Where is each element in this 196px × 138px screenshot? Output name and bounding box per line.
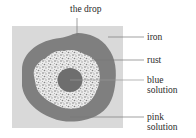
blue-solution-label: blue solution: [147, 75, 196, 95]
blue-solution-label-line1: blue: [147, 75, 196, 85]
blue-solution-label-line2: solution: [147, 85, 196, 95]
pink-solution-label-line1: pink: [147, 112, 196, 122]
pink-solution-label: pink solution: [147, 112, 196, 132]
rust-diagram: the drop iron rust blue solution pink so…: [0, 0, 196, 138]
iron-label: iron: [147, 32, 162, 42]
pink-solution-label-line2: solution: [147, 122, 196, 132]
rust-label: rust: [147, 55, 161, 65]
drop-label: the drop: [70, 4, 101, 14]
